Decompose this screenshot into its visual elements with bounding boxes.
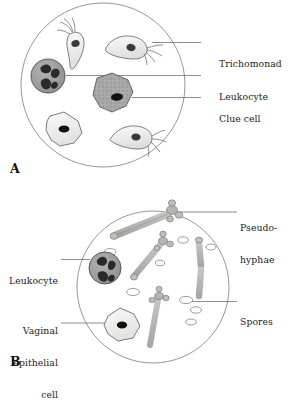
panel-letter-a: A xyxy=(10,161,20,176)
label-pseudohyphae-line-1: Pseudo- xyxy=(240,223,277,234)
label-vaginal-epithelial-cell-line-3: cell xyxy=(0,390,58,401)
label-vaginal-epithelial-cell: Vaginal epithelial cell xyxy=(0,305,58,402)
leukocyte-cell xyxy=(31,59,65,93)
label-pseudohyphae: Pseudo- hyphae xyxy=(240,202,277,287)
label-clue-cell-line-1: Clue cell xyxy=(219,114,261,125)
panel-a-group xyxy=(21,3,201,167)
panel-b-group xyxy=(61,200,237,363)
panel-letter-b: B xyxy=(10,354,21,369)
label-pseudohyphae-line-2: hyphae xyxy=(240,255,277,266)
label-clue-cell: Clue cell xyxy=(219,93,261,146)
label-vaginal-epithelial-cell-line-1: Vaginal xyxy=(0,326,58,337)
leukocyte-cell-b xyxy=(89,252,121,284)
label-spores: Spores xyxy=(240,296,273,349)
label-trichomonad-line-1: Trichomonad xyxy=(219,59,282,70)
label-spores-line-1: Spores xyxy=(240,317,273,328)
label-leukocyte-b-line-1: Leukocyte xyxy=(0,276,58,287)
label-vaginal-epithelial-cell-line-2: epithelial xyxy=(0,358,58,369)
label-leukocyte-b: Leukocyte xyxy=(0,255,58,308)
